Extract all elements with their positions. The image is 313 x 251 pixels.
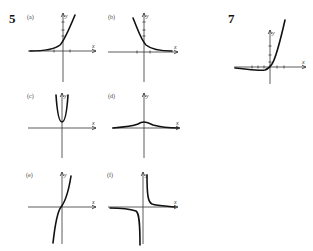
panel-label: (a) [27,14,34,21]
y-axis-label: y [145,93,149,99]
y-axis-label: y [63,93,67,99]
y-axis-label: y [63,172,67,178]
graph-panel-c: (c)xy [27,93,96,158]
y-axis-label: y [145,13,149,19]
panel-label: (b) [108,14,115,21]
y-axis-label: y [64,13,68,19]
panel-label: (d) [108,93,115,100]
problem-numbers: 57 [9,11,235,26]
graph-panel-a: (a)xy [27,13,96,82]
panel-label: (f) [107,172,113,179]
x-axis-label: x [91,199,95,205]
x-axis-label: x [91,120,95,126]
figure: 57 (a)xy(b)xy(c)xy(d)xy(e)xy(f)xyxy [0,0,313,251]
graph-panel-b: (b)xy [108,13,178,82]
panel-label: (c) [27,93,34,100]
graph-panel-d: (d)xy [108,93,180,158]
function-curve [110,175,175,245]
panel-label: (e) [26,172,33,179]
problem-number: 5 [9,11,16,26]
function-curve [30,15,75,51]
graph-panel-e: (e)xy [26,172,96,244]
function-curve [133,18,172,51]
x-axis-label: x [173,199,177,205]
y-axis-label: y [271,30,275,36]
graph-panel-f: (f)xy [107,172,178,245]
graph-panels: (a)xy(b)xy(c)xy(d)xy(e)xy(f)xyxy [26,13,306,245]
x-axis-label: x [91,43,95,49]
function-curve [113,122,178,128]
function-curve [235,20,285,70]
problem-number: 7 [228,11,235,26]
x-axis-label: x [301,59,305,65]
graph-panel-7: xy [234,20,306,84]
x-axis-label: x [175,120,179,126]
x-axis-label: x [173,44,177,50]
